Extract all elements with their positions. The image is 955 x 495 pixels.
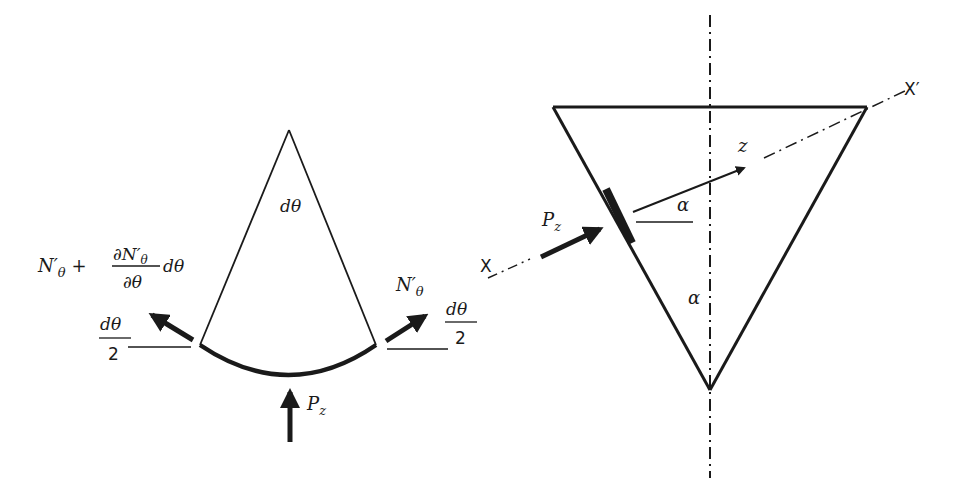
- right-force-label: N′θ: [395, 274, 424, 299]
- shell-element: [606, 189, 632, 243]
- cone-pressure-label: Pz: [541, 209, 561, 234]
- right-panel-cone: Pz z α α X X′: [480, 15, 920, 478]
- x-axis-right-segment: [764, 90, 907, 158]
- left-half-angle-label: dθ 2: [99, 314, 131, 364]
- left-force-suffix: dθ: [163, 256, 184, 276]
- left-pressure-label: Pz: [306, 393, 326, 418]
- left-half-angle-numerator: dθ: [100, 314, 121, 334]
- normal-z-label: z: [737, 135, 748, 156]
- left-panel-sector: dθ dθ 2 N′θ + ∂N′θ ∂θ dθ N′θ dθ 2: [37, 130, 477, 442]
- x-axis-end-label: X′: [904, 79, 920, 99]
- left-force-partial-numerator: ∂N′θ: [113, 244, 149, 267]
- sector-left-side: [200, 130, 289, 345]
- shell-force-diagram: dθ dθ 2 N′θ + ∂N′θ ∂θ dθ N′θ dθ 2: [0, 0, 955, 495]
- left-force-arrow: [152, 315, 193, 340]
- cone-left-edge: [553, 107, 710, 390]
- right-half-angle-numerator: dθ: [446, 299, 467, 319]
- right-force-arrow: [386, 316, 425, 341]
- upper-alpha-label: α: [677, 194, 689, 215]
- apex-angle-label: dθ: [280, 196, 301, 216]
- x-axis-left-segment: [488, 259, 530, 278]
- cone-pressure-arrow: [541, 229, 600, 257]
- lower-alpha-label: α: [688, 287, 700, 308]
- left-force-label: N′θ + ∂N′θ ∂θ dθ: [37, 244, 184, 292]
- right-half-angle-denominator: 2: [455, 328, 466, 348]
- sector-right-side: [289, 130, 376, 345]
- left-force-base-term: N′θ +: [37, 255, 86, 280]
- left-half-angle-denominator: 2: [108, 344, 119, 364]
- cone-right-edge: [710, 107, 867, 390]
- x-axis-start-label: X: [480, 256, 492, 276]
- left-force-partial-denominator: ∂θ: [123, 272, 142, 292]
- right-half-angle-label: dθ 2: [445, 299, 477, 348]
- shell-arc: [200, 345, 376, 375]
